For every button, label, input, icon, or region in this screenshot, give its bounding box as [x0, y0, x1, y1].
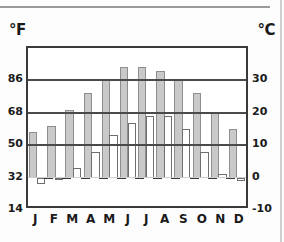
month-column — [46, 48, 64, 206]
gridline — [28, 112, 246, 114]
zero-line — [28, 177, 246, 178]
month-column — [155, 48, 173, 206]
plot-area — [26, 46, 248, 208]
right-axis-tick-label: 10 — [252, 137, 267, 150]
left-axis-tick-label: 32 — [8, 169, 23, 182]
month-column — [83, 48, 101, 206]
right-axis-tick-label: -10 — [252, 202, 272, 215]
month-label: F — [45, 212, 64, 226]
month-label: N — [211, 212, 230, 226]
bar-low — [182, 129, 190, 178]
top-divider-rule — [0, 6, 270, 8]
month-column — [210, 48, 228, 206]
month-label: M — [100, 212, 119, 226]
month-label: S — [174, 212, 193, 226]
month-column — [173, 48, 191, 206]
month-label: A — [82, 212, 101, 226]
month-label: J — [26, 212, 45, 226]
month-column — [119, 48, 137, 206]
x-axis-month-labels: JFMAMJJASOND — [26, 212, 248, 226]
month-column — [28, 48, 46, 206]
bar-high — [47, 126, 55, 178]
right-axis-tick-label: 30 — [252, 72, 267, 85]
month-label: J — [119, 212, 138, 226]
bar-high — [229, 129, 237, 178]
bar-low — [164, 116, 172, 178]
month-label: J — [137, 212, 156, 226]
left-axis-tick-label: 14 — [8, 202, 23, 215]
month-column — [101, 48, 119, 206]
bar-low — [91, 152, 99, 178]
month-label: D — [230, 212, 249, 226]
month-column — [192, 48, 210, 206]
bar-low — [146, 116, 154, 178]
month-column — [64, 48, 82, 206]
right-axis-tick-label: 0 — [252, 169, 260, 182]
month-label: O — [193, 212, 212, 226]
gridline — [28, 79, 246, 81]
bar-low — [237, 178, 245, 181]
month-column — [228, 48, 246, 206]
gridline — [28, 144, 246, 146]
left-axis-tick-label: 50 — [8, 137, 23, 150]
chart-page: °F °C 8668503214 3020100-10 JFMAMJJASOND — [0, 0, 284, 242]
left-axis-tick-label: 86 — [8, 72, 23, 85]
month-column — [137, 48, 155, 206]
bar-low — [128, 123, 136, 178]
bar-group — [28, 48, 246, 206]
left-axis-tick-label: 68 — [8, 104, 23, 117]
bar-low — [200, 152, 208, 178]
right-axis-tick-label: 20 — [252, 104, 267, 117]
month-label: M — [63, 212, 82, 226]
bar-low — [109, 135, 117, 177]
bar-high — [29, 132, 37, 177]
month-label: A — [156, 212, 175, 226]
left-axis-labels: 8668503214 — [0, 0, 23, 242]
right-axis-labels: 3020100-10 — [252, 0, 284, 242]
